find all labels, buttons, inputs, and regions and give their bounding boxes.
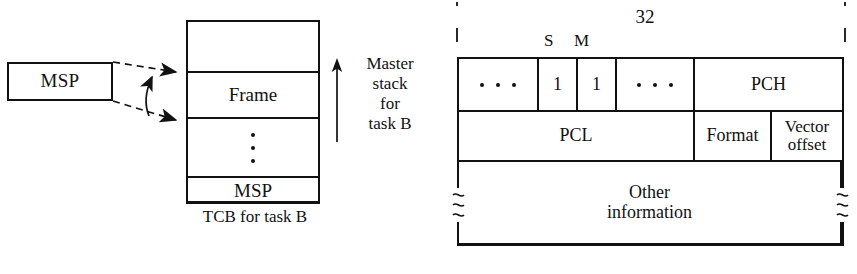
- vertical-ellipsis-icon: [251, 133, 255, 163]
- field-vector-offset-label: Vector offset: [785, 118, 829, 155]
- left-diagram: MSP Frame: [0, 0, 430, 274]
- field-vector-offset: Vector offset: [772, 112, 842, 160]
- bit-label-m: M: [574, 31, 589, 51]
- field-other-information: Other information: [459, 162, 842, 243]
- bit-label-s: S: [544, 31, 553, 51]
- other-information-row: Other information: [459, 162, 842, 246]
- dashed-line-upper: [113, 62, 176, 72]
- field-m-bit: 1: [578, 59, 617, 110]
- field-s-bit: 1: [539, 59, 578, 110]
- master-stack-label-line-4: task B: [350, 114, 430, 134]
- stack-cell-msp: MSP: [188, 178, 318, 203]
- msp-register-box: MSP: [7, 62, 113, 101]
- stack-cell-continuation: [188, 119, 318, 178]
- field-pcl: PCL: [459, 112, 695, 160]
- field-format-label: Format: [707, 126, 759, 145]
- master-stack-up-arrow-icon: [328, 56, 346, 142]
- stack-cell-msp-label: MSP: [234, 180, 272, 202]
- right-diagram: 32 S M 1 1 PCH: [430, 0, 857, 274]
- field-pch-label: PCH: [751, 75, 786, 94]
- width-dimension-value: 32: [440, 6, 850, 28]
- field-m-bit-value: 1: [592, 75, 601, 94]
- field-other-information-label: Other information: [607, 183, 692, 222]
- msp-register-label-wrap: MSP: [9, 64, 111, 99]
- field-format: Format: [695, 112, 772, 160]
- program-counter-row: PCL Format Vector offset: [459, 112, 842, 162]
- tcb-caption: TCB for task B: [175, 207, 335, 227]
- master-stack-label: Master stack for task B: [350, 54, 430, 134]
- field-s-bit-value: 1: [553, 75, 562, 94]
- stack-pointer-connectors: [100, 50, 200, 135]
- field-low-bits: [617, 59, 695, 110]
- curved-growth-arrow: [146, 77, 152, 116]
- break-mark-right-icon: [835, 188, 851, 222]
- stack-cell-empty-top: [188, 22, 318, 73]
- field-high-bits: [459, 59, 539, 110]
- stack-cell-frame: Frame: [188, 73, 318, 119]
- field-pch: PCH: [695, 59, 842, 110]
- dashed-line-lower: [113, 101, 176, 120]
- horizontal-ellipsis-icon-left: [480, 83, 516, 87]
- stack-frame-format-table: 1 1 PCH PCL Format Vector offse: [457, 57, 844, 246]
- stack-cell-frame-label: Frame: [229, 84, 278, 106]
- break-mark-left-icon: [450, 188, 466, 222]
- status-register-row: 1 1 PCH: [459, 59, 842, 112]
- master-stack-label-line-1: Master: [350, 54, 430, 74]
- master-stack-label-line-2: stack: [350, 74, 430, 94]
- msp-register-label: MSP: [41, 71, 80, 91]
- horizontal-ellipsis-icon-right: [637, 83, 673, 87]
- tcb-stack-column: Frame MSP: [186, 20, 320, 204]
- field-pcl-label: PCL: [559, 126, 592, 145]
- master-stack-label-line-3: for: [350, 94, 430, 114]
